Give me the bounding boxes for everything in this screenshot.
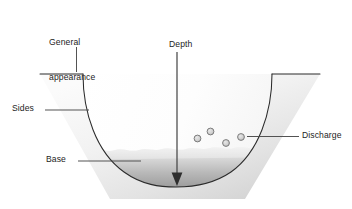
channel-diagram: General appearance Depth Sides Base Disc… bbox=[0, 0, 352, 209]
label-sides: Sides bbox=[12, 103, 34, 115]
bubble bbox=[223, 140, 230, 147]
bubble bbox=[207, 128, 214, 135]
label-general-appearance: General appearance bbox=[49, 14, 95, 106]
bubble bbox=[194, 135, 201, 142]
label-discharge: Discharge bbox=[302, 130, 342, 142]
bubble bbox=[238, 134, 245, 141]
label-general-appearance-line2: appearance bbox=[49, 72, 95, 84]
label-depth: Depth bbox=[169, 39, 192, 51]
label-general-appearance-line1: General bbox=[49, 37, 95, 49]
label-base: Base bbox=[46, 154, 66, 166]
